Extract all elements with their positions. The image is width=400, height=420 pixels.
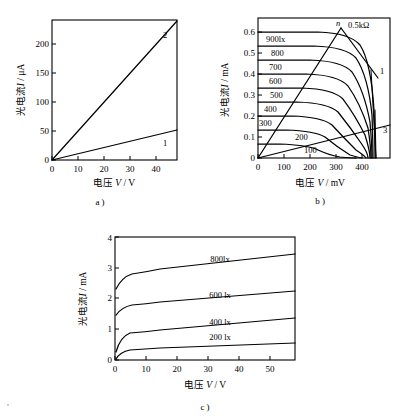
y-tick-label: 0 [251, 153, 256, 163]
x-tick-label: 0 [113, 364, 118, 374]
x-tick-label: 100 [277, 162, 291, 172]
y-axis-label-a: 光电流I / μA [15, 64, 26, 117]
x-tick-label: 40 [152, 164, 162, 174]
x-tick-label: 10 [74, 164, 84, 174]
y-tick-label: 0.1 [244, 132, 255, 142]
y-tickmarks-a [52, 44, 56, 160]
curve-label-600lx-c: 600 lx [209, 290, 231, 300]
x-axis-label-cn: 电压 [93, 177, 113, 188]
x-tick-label: 10 [142, 364, 152, 374]
y-tick-label: 200 [36, 39, 50, 49]
photocurrent-curve-family-c [116, 254, 295, 359]
y-tick-label: 0.2 [244, 111, 255, 121]
curve-label-a-1: 1 [163, 138, 167, 148]
x-tick-label: 20 [100, 164, 110, 174]
y-axis-label-unit: / mA [220, 62, 230, 81]
curve-600lx-c [116, 291, 295, 315]
x-axis-label-cn: 电压 [295, 177, 315, 188]
scan-speck [7, 404, 9, 406]
panel-c-plot: 0 1 2 3 4 0 10 20 30 40 50 800lx 600 lx … [60, 215, 340, 420]
curve-200lx-c [116, 343, 295, 359]
x-tick-label: 30 [126, 164, 136, 174]
y-tick-label: 1 [108, 324, 113, 334]
x-axis-label-c: 电压 V / V [184, 379, 226, 390]
x-tick-label: 200 [303, 162, 317, 172]
load-line-label-1: 1 [380, 66, 384, 76]
x-tick-label: 400 [355, 162, 369, 172]
y-tick-label: 2 [108, 293, 113, 303]
curve-1-line [52, 130, 177, 160]
curve-label-600: 600 [269, 76, 282, 86]
curve-label-400: 400 [264, 104, 277, 114]
y-axis-label-c: 光电流I / mA [77, 271, 88, 326]
panel-b-plot: 0 0.1 0.2 0.3 0.4 0.5 0.6 0 100 200 300 … [200, 0, 400, 215]
curve-2-line [52, 21, 177, 160]
svg-text:光电流I / μA: 光电流I / μA [15, 64, 26, 117]
x-axis-label-unit: / V [123, 178, 135, 188]
y-tickmarks-b [258, 32, 262, 158]
x-tickmarks-c [115, 356, 270, 360]
x-tick-label: 30 [204, 364, 214, 374]
y-tick-label: 4 [108, 233, 113, 243]
x-tick-label: 300 [329, 162, 343, 172]
y-tick-label: 3 [108, 263, 113, 273]
y-tick-label: 150 [36, 68, 50, 78]
curve-label-900lx: 900lx [266, 34, 286, 44]
y-tick-label: 0.5 [244, 48, 256, 58]
y-tick-label: 0.6 [244, 27, 256, 37]
y-axis-label-b: 光电流I / mA [219, 62, 230, 117]
load-line-label-3: 3 [383, 125, 387, 135]
y-axis-label-unit: / mA [78, 271, 88, 290]
curve-label-400lx-c: 400 lx [209, 317, 231, 327]
x-axis-label-cn: 电压 [184, 379, 204, 390]
y-tickmarks-c [115, 237, 119, 360]
x-axis-label-a: 电压 V / V [93, 177, 135, 188]
y-axis-label-cn: 光电流 [77, 296, 88, 326]
curve-label-200lx-c: 200 lx [209, 332, 231, 342]
y-axis-label-cn: 光电流 [15, 86, 26, 116]
y-tick-label: 0.3 [244, 90, 256, 100]
x-tick-label: 0 [50, 164, 55, 174]
panel-a: 0 50 100 150 200 0 10 20 30 40 2 1 电压 V … [0, 0, 200, 215]
panel-caption-c: c ) [200, 402, 209, 412]
x-tick-label: 50 [266, 364, 276, 374]
panel-c: 0 1 2 3 4 0 10 20 30 40 50 800lx 600 lx … [60, 215, 340, 420]
y-tick-label: 0.4 [244, 69, 256, 79]
y-tick-label: 0 [45, 155, 50, 165]
curve-label-100: 100 [304, 145, 317, 155]
x-axis-label-unit: / mV [326, 178, 345, 188]
y-axis-label-unit: / μA [16, 64, 26, 81]
curve-800lx-c [116, 254, 295, 289]
curve-label-800lx-c: 800lx [210, 254, 230, 264]
curve-label-300: 300 [259, 118, 272, 128]
curve-label-200: 200 [295, 132, 308, 142]
y-tick-label: 0 [108, 355, 113, 365]
svg-text:光电流I / mA: 光电流I / mA [77, 271, 88, 326]
svg-text:电压 V / V: 电压 V / V [93, 177, 135, 188]
panel-caption-a: a ) [95, 197, 104, 207]
svg-text:光电流I / mA: 光电流I / mA [219, 62, 230, 117]
panel-b: 0 0.1 0.2 0.3 0.4 0.5 0.6 0 100 200 300 … [200, 0, 400, 215]
curve-label-a-2: 2 [163, 30, 167, 40]
x-tick-label: 20 [173, 364, 183, 374]
load-label-sym: n [336, 18, 340, 28]
load-line-1-tail [341, 28, 378, 78]
load-label-value: 0.5kΩ [348, 20, 369, 30]
y-tick-label: 50 [40, 126, 50, 136]
panel-a-plot: 0 50 100 150 200 0 10 20 30 40 2 1 电压 V … [0, 0, 200, 215]
y-tick-label: 100 [36, 97, 50, 107]
panel-caption-b: b ) [315, 196, 325, 206]
x-axis-label-b: 电压 V / mV [295, 177, 345, 188]
curve-label-500: 500 [270, 90, 283, 100]
x-axis-label-unit: / V [214, 380, 226, 390]
x-tick-label: 0 [256, 162, 261, 172]
curve-label-800: 800 [271, 48, 284, 58]
x-tick-label: 40 [235, 364, 245, 374]
curve-label-700: 700 [269, 62, 282, 72]
y-axis-label-cn: 光电流 [219, 87, 230, 117]
